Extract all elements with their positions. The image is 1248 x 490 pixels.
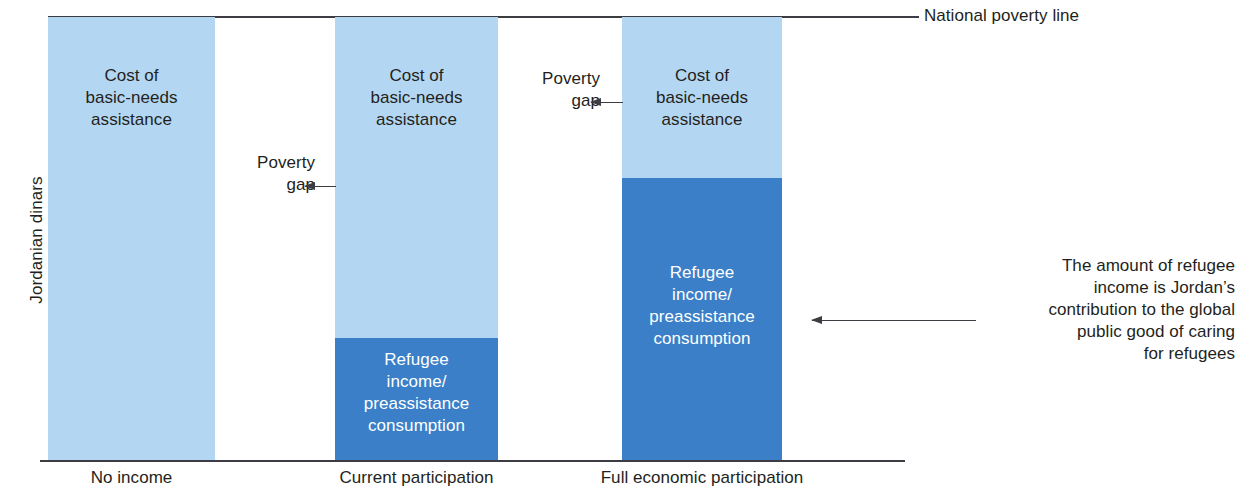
national-poverty-line-leader: [905, 16, 919, 18]
bar-full-economic-participation: Cost of basic-needs assistance Refugee i…: [622, 17, 782, 461]
label-line: Cost of: [335, 65, 498, 87]
label-line: for refugees: [985, 343, 1235, 365]
label-line: Poverty: [223, 152, 315, 174]
label-line: income/: [622, 284, 782, 306]
x-tick-label-full-economic-participation: Full economic participation: [572, 468, 832, 488]
segment-label-basic-needs-assistance: Cost of basic-needs assistance: [48, 65, 215, 131]
label-line: basic-needs: [622, 87, 782, 109]
label-line: basic-needs: [48, 87, 215, 109]
x-axis-line: [40, 460, 905, 462]
x-tick-label-current-participation: Current participation: [305, 468, 528, 488]
label-line: public good of caring: [985, 321, 1235, 343]
label-line: income is Jordan’s: [985, 277, 1235, 299]
label-line: preassistance: [622, 306, 782, 328]
segment-label-basic-needs-assistance: Cost of basic-needs assistance: [335, 65, 498, 131]
segment-label-basic-needs-assistance: Cost of basic-needs assistance: [622, 65, 782, 131]
label-line: income/: [335, 371, 498, 393]
label-line: Cost of: [48, 65, 215, 87]
label-line: assistance: [48, 109, 215, 131]
stacked-bar-chart: Jordanian dinars National poverty line C…: [0, 0, 1248, 490]
segment-label-refugee-income: Refugee income/ preassistance consumptio…: [622, 262, 782, 350]
national-poverty-line-label: National poverty line: [924, 6, 1079, 26]
label-line: gap: [508, 90, 600, 112]
bar-current-participation: Cost of basic-needs assistance Refugee i…: [335, 17, 498, 461]
label-line: assistance: [335, 109, 498, 131]
label-line: contribution to the global: [985, 299, 1235, 321]
arrow-left-icon: [305, 186, 336, 187]
label-line: basic-needs: [335, 87, 498, 109]
label-line: preassistance: [335, 393, 498, 415]
y-axis-title: Jordanian dinars: [27, 140, 47, 340]
label-line: Refugee: [335, 349, 498, 371]
label-line: The amount of refugee: [985, 255, 1235, 277]
bar-no-income: Cost of basic-needs assistance: [48, 17, 215, 461]
label-line: gap: [223, 174, 315, 196]
label-line: assistance: [622, 109, 782, 131]
segment-label-refugee-income: Refugee income/ preassistance consumptio…: [335, 349, 498, 437]
label-line: Refugee: [622, 262, 782, 284]
arrow-left-icon: [812, 320, 976, 321]
arrow-left-icon: [591, 102, 623, 103]
poverty-gap-label-full: Poverty gap: [508, 68, 600, 112]
label-line: Cost of: [622, 65, 782, 87]
label-line: Poverty: [508, 68, 600, 90]
label-line: consumption: [335, 415, 498, 437]
refugee-income-note: The amount of refugee income is Jordan’s…: [985, 255, 1235, 365]
label-line: consumption: [622, 328, 782, 350]
x-tick-label-no-income: No income: [48, 468, 215, 488]
poverty-gap-label-current: Poverty gap: [223, 152, 315, 196]
